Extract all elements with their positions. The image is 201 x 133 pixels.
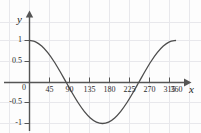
y-tick-label-neg0_5: -0.5 [0, 98, 22, 106]
x-tick-label-360: 360 [164, 86, 189, 94]
x-axis-ticks [50, 78, 170, 83]
y-tick-label-0_5: 0.5 [2, 57, 22, 65]
y-axis [26, 11, 33, 132]
vertical-gridlines [10, 0, 190, 133]
y-axis-label: y [17, 14, 22, 25]
cosine-graph-figure: 1 0.5 0 -0.5 -1 45 90 135 180 225 270 31… [0, 0, 201, 133]
y-tick-label-1: 1 [4, 36, 22, 44]
plot-canvas [0, 0, 201, 133]
y-tick-label-0: 0 [12, 84, 26, 92]
y-tick-label-neg1: -1 [6, 119, 22, 127]
x-axis-label: x [189, 84, 194, 95]
